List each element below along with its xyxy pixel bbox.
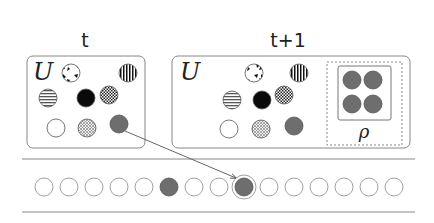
sequence-item-empty bbox=[110, 178, 128, 196]
sequence-item-filled bbox=[235, 178, 253, 196]
vertical-stripes-circle-icon bbox=[290, 64, 308, 82]
crosshatch-circle-icon bbox=[252, 120, 270, 138]
sequence-item-empty bbox=[360, 178, 378, 196]
panel-t: U bbox=[27, 56, 145, 148]
rho-circles bbox=[343, 71, 382, 113]
sequence-row bbox=[35, 175, 403, 199]
horizontal-stripes-circle-icon bbox=[223, 91, 241, 109]
sequence-item-empty bbox=[385, 178, 403, 196]
diagram-canvas: t t+1 U U ρ bbox=[0, 0, 434, 223]
set-label-u: U bbox=[180, 58, 201, 86]
crosshatch-circle-icon bbox=[78, 119, 96, 137]
sequence-item-empty bbox=[85, 178, 103, 196]
sequence-item-empty bbox=[35, 178, 53, 196]
rho-label: ρ bbox=[358, 121, 370, 142]
rho-group: ρ bbox=[327, 62, 402, 145]
sequence-item-empty bbox=[335, 178, 353, 196]
sequence-item-empty bbox=[285, 178, 303, 196]
set-label-u: U bbox=[33, 58, 54, 86]
solid-black-circle-icon bbox=[77, 89, 95, 107]
solid-gray-circle-icon bbox=[343, 71, 361, 89]
vertical-stripes-circle-icon bbox=[119, 64, 137, 82]
camouflage-circle-icon bbox=[62, 64, 80, 82]
panel-title-t: t bbox=[81, 29, 88, 51]
sequence-item-empty bbox=[210, 178, 228, 196]
empty-white-circle-icon bbox=[47, 119, 65, 137]
sequence-item-filled bbox=[160, 178, 178, 196]
solid-gray-circle-icon bbox=[343, 95, 361, 113]
sequence-item-empty bbox=[135, 178, 153, 196]
solid-gray-circle-icon bbox=[364, 71, 382, 89]
checkerboard-circle-icon bbox=[100, 86, 118, 104]
sequence-item-empty bbox=[260, 178, 278, 196]
solid-gray-circle-icon bbox=[285, 117, 303, 135]
horizontal-stripes-circle-icon bbox=[39, 89, 57, 107]
camouflage-circle-icon bbox=[245, 64, 263, 82]
sequence-item-empty bbox=[310, 178, 328, 196]
solid-black-circle-icon bbox=[253, 91, 271, 109]
checkerboard-circle-icon bbox=[275, 86, 293, 104]
transition-arrow bbox=[125, 131, 236, 178]
sequence-item-empty bbox=[60, 178, 78, 196]
solid-gray-circle-icon bbox=[110, 115, 128, 133]
empty-white-circle-icon bbox=[220, 120, 238, 138]
sequence-item-empty bbox=[185, 178, 203, 196]
panel-title-t-plus-1: t+1 bbox=[270, 29, 305, 51]
panel-t-plus-1-circles bbox=[220, 64, 308, 138]
solid-gray-circle-icon bbox=[364, 95, 382, 113]
panel-t-plus-1: U ρ bbox=[172, 56, 410, 148]
panel-t-circles bbox=[39, 64, 137, 137]
